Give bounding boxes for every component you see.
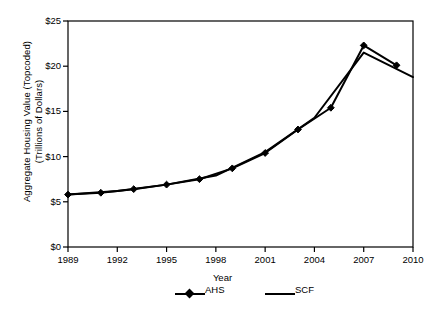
- x-tick-label: 2004: [294, 255, 334, 265]
- series-line-scf: [68, 53, 413, 195]
- x-tick-label: 1995: [147, 255, 187, 265]
- x-tick-label: 1992: [97, 255, 137, 265]
- chart-figure: Aggregate Housing Value (Topcoded) (Tril…: [0, 0, 433, 315]
- x-axis-ticks: [68, 247, 413, 252]
- y-tick-label: $15: [27, 106, 61, 116]
- x-tick-label: 1989: [48, 255, 88, 265]
- legend-swatch-ahs-marker-line: [175, 289, 205, 299]
- x-axis-title: Year: [0, 272, 433, 283]
- y-tick-label: $0: [27, 242, 61, 252]
- legend-label-ahs: AHS: [205, 284, 225, 295]
- x-tick-label: 2010: [393, 255, 433, 265]
- y-tick-label: $25: [27, 16, 61, 26]
- y-tick-label: $10: [27, 152, 61, 162]
- y-axis-ticks: [63, 21, 68, 247]
- chart-legend: AHS SCF: [0, 288, 433, 308]
- plot-canvas: [0, 0, 433, 315]
- legend-item-scf: SCF: [265, 288, 314, 299]
- x-axis-title-text: Year: [213, 272, 232, 283]
- x-tick-label: 2007: [344, 255, 384, 265]
- legend-swatch-scf-line: [265, 289, 295, 299]
- x-tick-label: 2001: [245, 255, 285, 265]
- legend-label-scf: SCF: [295, 284, 314, 295]
- legend-item-ahs: AHS: [175, 288, 225, 299]
- data-series-layer: [65, 42, 413, 198]
- y-tick-label: $20: [27, 61, 61, 71]
- y-tick-label: $5: [27, 197, 61, 207]
- x-tick-label: 1998: [196, 255, 236, 265]
